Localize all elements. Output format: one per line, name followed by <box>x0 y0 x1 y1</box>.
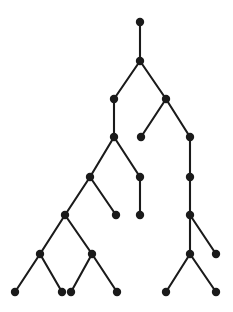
tree-edge <box>71 254 92 292</box>
tree-node-leaf <box>113 288 121 296</box>
tree-edge <box>40 215 65 254</box>
tree-node-leaf <box>67 288 75 296</box>
tree-node-internal <box>186 173 194 181</box>
node-layer <box>11 18 220 296</box>
tree-node-internal <box>36 250 44 258</box>
tree-diagram-canvas <box>0 0 233 312</box>
tree-edge <box>166 254 190 292</box>
tree-node-internal <box>186 211 194 219</box>
tree-node-internal <box>136 173 144 181</box>
tree-node-internal <box>88 250 96 258</box>
tree-edge <box>90 177 116 215</box>
tree-edge <box>141 99 166 137</box>
tree-edge <box>190 215 216 254</box>
tree-edge <box>92 254 117 292</box>
tree-edge <box>140 61 166 99</box>
tree-edge <box>40 254 62 292</box>
tree-edge <box>65 215 92 254</box>
tree-node-leaf <box>112 211 120 219</box>
tree-edge <box>90 137 114 177</box>
tree-node-leaf <box>212 250 220 258</box>
tree-edge <box>114 61 140 99</box>
tree-node-internal <box>110 95 118 103</box>
tree-edge <box>114 137 140 177</box>
tree-node-leaf <box>58 288 66 296</box>
tree-node-leaf <box>212 288 220 296</box>
tree-node-internal <box>86 173 94 181</box>
tree-edge <box>15 254 40 292</box>
tree-node-leaf <box>11 288 19 296</box>
tree-node-internal <box>61 211 69 219</box>
tree-edge <box>65 177 90 215</box>
tree-node-leaf <box>137 133 145 141</box>
tree-edge <box>190 254 216 292</box>
tree-node-internal <box>136 57 144 65</box>
tree-node-internal <box>186 133 194 141</box>
tree-node-leaf <box>162 288 170 296</box>
tree-node-root <box>136 18 144 26</box>
edge-layer <box>15 22 216 292</box>
tree-node-leaf <box>136 211 144 219</box>
tree-node-internal <box>186 250 194 258</box>
tree-edge <box>166 99 190 137</box>
tree-node-internal <box>162 95 170 103</box>
tree-graphic <box>0 0 233 312</box>
tree-node-internal <box>110 133 118 141</box>
